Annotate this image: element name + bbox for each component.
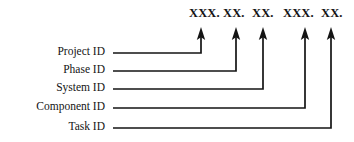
leader-line-project [113, 34, 201, 53]
id-scheme-diagram: XXX. XX. XX. XXX. XX. Project ID Phase I… [0, 0, 354, 142]
mask-segment-project: XXX. [189, 6, 220, 20]
mask-segment-task: XX. [321, 6, 342, 20]
label-phase-id: Phase ID [63, 63, 105, 75]
label-project-id: Project ID [57, 45, 105, 58]
mask-segment-component: XXX. [283, 6, 314, 20]
diagram-canvas: XXX. XX. XX. XXX. XX. Project ID Phase I… [0, 0, 354, 142]
label-system-id: System ID [56, 81, 105, 94]
mask-pattern-group: XXX. XX. XX. XXX. XX. [189, 6, 342, 20]
callout-row-project: Project ID [57, 27, 205, 58]
label-task-id: Task ID [68, 120, 105, 132]
leader-line-task [113, 34, 331, 128]
mask-segment-phase: XX. [223, 6, 244, 20]
label-component-id: Component ID [36, 100, 105, 113]
mask-segment-system: XX. [252, 6, 273, 20]
leader-line-system [113, 34, 263, 89]
